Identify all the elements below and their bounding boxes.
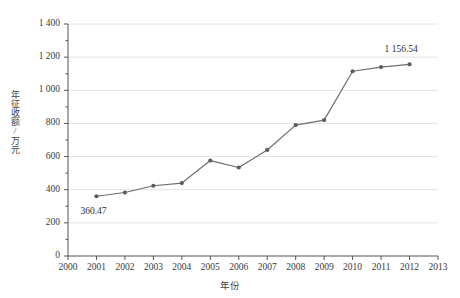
y-axis-ticks: [64, 24, 68, 256]
data-point-marker: [151, 184, 155, 188]
y-tick-label: 200: [20, 217, 60, 227]
data-series-line: [96, 64, 409, 196]
data-point-marker: [123, 190, 127, 194]
data-point-marker: [322, 118, 326, 122]
y-tick-label: 600: [20, 151, 60, 161]
line-chart: 年征收额/万元 02004006008001 0001 2001 400 200…: [0, 0, 460, 298]
y-tick-label: 1 400: [20, 18, 60, 28]
x-axis-title: 年份: [0, 278, 460, 292]
y-tick-label: 0: [20, 250, 60, 260]
data-point-marker: [180, 181, 184, 185]
first-point-label: 360.47: [80, 206, 106, 216]
y-tick-label: 1 000: [20, 84, 60, 94]
last-point-label: 1 156.54: [385, 44, 418, 54]
y-tick-label: 1 200: [20, 51, 60, 61]
data-point-marker: [208, 158, 212, 162]
data-point-markers: [94, 62, 411, 198]
data-point-marker: [351, 69, 355, 73]
y-tick-label: 400: [20, 184, 60, 194]
x-axis-ticks: [68, 256, 438, 260]
data-point-marker: [237, 165, 241, 169]
data-point-marker: [265, 148, 269, 152]
data-point-marker: [379, 65, 383, 69]
data-point-marker: [407, 62, 411, 66]
y-tick-label: 800: [20, 117, 60, 127]
x-tick-label: 2013: [418, 262, 458, 272]
data-point-marker: [294, 123, 298, 127]
data-point-marker: [94, 194, 98, 198]
